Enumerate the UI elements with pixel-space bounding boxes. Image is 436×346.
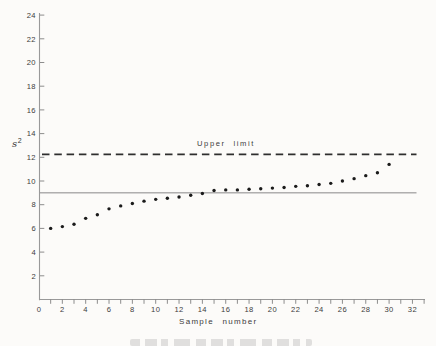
data-point-11 [166, 196, 169, 199]
data-point-18 [247, 188, 250, 191]
data-point-29 [376, 171, 379, 174]
data-point-3 [72, 223, 75, 226]
y-tick-label-22: 22 [27, 35, 36, 44]
data-point-2 [61, 225, 64, 228]
caption-fragment [130, 339, 312, 346]
data-point-13 [189, 194, 192, 197]
x-tick-label-0: 0 [37, 305, 42, 314]
y-axis-label: s2 [12, 138, 21, 149]
data-point-24 [317, 183, 320, 186]
x-tick-label-10: 10 [151, 305, 160, 314]
data-point-16 [224, 188, 227, 191]
data-point-12 [177, 195, 180, 198]
data-point-23 [306, 184, 309, 187]
data-point-20 [271, 186, 274, 189]
data-point-6 [107, 207, 110, 210]
data-point-17 [236, 188, 239, 191]
data-point-25 [329, 182, 332, 185]
y-tick-label-10: 10 [27, 177, 36, 186]
x-tick-label-4: 4 [83, 305, 88, 314]
x-tick-label-30: 30 [384, 305, 393, 314]
x-tick-label-22: 22 [291, 305, 300, 314]
data-point-10 [154, 198, 157, 201]
y-axis-label-base: s [12, 138, 17, 149]
y-tick-label-6: 6 [31, 224, 36, 233]
x-tick-label-20: 20 [268, 305, 277, 314]
x-axis-label: Sample number [179, 317, 257, 326]
data-point-14 [201, 192, 204, 195]
upper-limit-label: Upper limit [197, 139, 255, 148]
y-tick-label-4: 4 [31, 248, 36, 257]
x-tick-label-26: 26 [338, 305, 347, 314]
x-tick-label-8: 8 [130, 305, 135, 314]
data-point-21 [282, 186, 285, 189]
y-tick-label-8: 8 [31, 200, 36, 209]
x-tick-label-12: 12 [174, 305, 183, 314]
data-point-5 [96, 213, 99, 216]
data-point-8 [131, 202, 134, 205]
data-point-9 [142, 199, 145, 202]
x-tick-label-18: 18 [244, 305, 253, 314]
y-tick-label-2: 2 [31, 272, 36, 281]
x-tick-label-6: 6 [107, 305, 112, 314]
data-point-19 [259, 187, 262, 190]
data-point-4 [84, 217, 87, 220]
data-point-22 [294, 185, 297, 188]
x-tick-label-28: 28 [361, 305, 370, 314]
x-tick-label-16: 16 [221, 305, 230, 314]
y-tick-label-14: 14 [27, 129, 36, 138]
data-point-7 [119, 204, 122, 207]
y-axis-label-superscript: 2 [18, 137, 22, 144]
data-point-27 [352, 177, 355, 180]
x-tick-label-14: 14 [198, 305, 207, 314]
data-point-26 [341, 179, 344, 182]
data-point-1 [49, 227, 52, 230]
y-tick-label-16: 16 [27, 106, 36, 115]
data-point-15 [212, 189, 215, 192]
x-tick-label-32: 32 [408, 305, 417, 314]
y-tick-label-12: 12 [27, 153, 36, 162]
y-tick-label-24: 24 [27, 11, 36, 20]
y-tick-label-20: 20 [27, 58, 36, 67]
y-tick-label-18: 18 [27, 82, 36, 91]
x-tick-label-24: 24 [314, 305, 323, 314]
data-point-30 [387, 163, 390, 166]
data-point-28 [364, 174, 367, 177]
x-tick-label-2: 2 [60, 305, 65, 314]
